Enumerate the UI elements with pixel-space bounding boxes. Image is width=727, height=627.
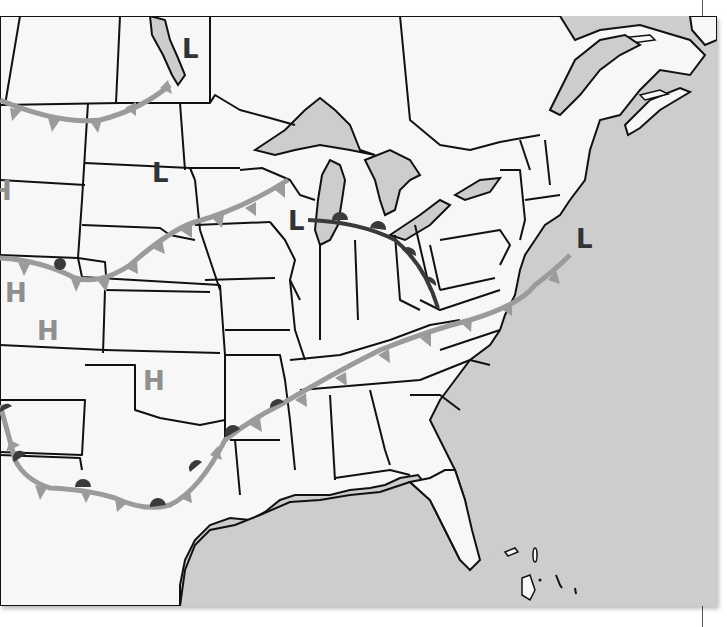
high-label-colorado: H bbox=[37, 316, 59, 346]
bahamas-island-2 bbox=[533, 548, 537, 562]
page-edge-line-top bbox=[702, 0, 703, 16]
high-label-oklahoma: H bbox=[143, 366, 165, 396]
low-label-manitoba: L bbox=[182, 34, 199, 64]
low-label-atlantic: L bbox=[576, 224, 593, 254]
weather-map: L L L L H H H H bbox=[0, 16, 717, 606]
high-label-west-edge: H bbox=[0, 176, 12, 206]
bahamas-island-5 bbox=[575, 588, 576, 594]
low-label-south-dakota: L bbox=[152, 158, 169, 188]
page-edge-line-bottom bbox=[702, 606, 703, 627]
high-label-utah: H bbox=[5, 278, 27, 308]
low-label-wisconsin: L bbox=[288, 206, 305, 236]
bahamas-island-3 bbox=[539, 579, 542, 582]
